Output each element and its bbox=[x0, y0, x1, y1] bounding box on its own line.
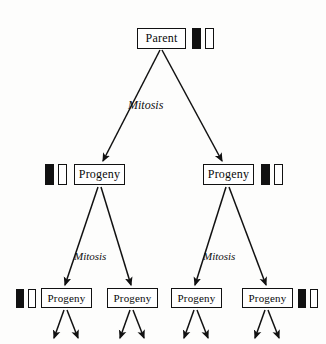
chromosome-light-parent bbox=[205, 28, 214, 49]
node-progeny-leaf-a: Progeny bbox=[41, 288, 92, 308]
chromosome-dark-mid-left bbox=[45, 164, 54, 185]
edge-leaf-a-down-left bbox=[54, 310, 64, 338]
label-mitosis-top: Mitosis bbox=[128, 98, 163, 113]
node-progeny-mid-right-label: Progeny bbox=[208, 167, 249, 182]
edge-leaf-b-down-right bbox=[133, 310, 144, 338]
chromosome-light-mid-right bbox=[274, 164, 283, 185]
node-progeny-mid-left: Progeny bbox=[74, 164, 125, 185]
edge-mid-left-to-leaf-a bbox=[65, 187, 98, 285]
node-progeny-leaf-a-label: Progeny bbox=[47, 292, 85, 304]
edge-parent-to-mid-right bbox=[162, 50, 222, 161]
chromosome-dark-mid-right bbox=[261, 164, 270, 185]
edge-leaf-d-down-right bbox=[268, 310, 279, 338]
chromosome-light-mid-left bbox=[58, 164, 67, 185]
chromosome-dark-leaf-d bbox=[298, 289, 306, 308]
node-progeny-mid-left-label: Progeny bbox=[79, 167, 120, 182]
node-progeny-leaf-c-label: Progeny bbox=[177, 292, 215, 304]
node-progeny-mid-right: Progeny bbox=[203, 164, 254, 185]
edge-leaf-c-down-left bbox=[184, 310, 194, 338]
chromosome-dark-leaf-a bbox=[16, 289, 24, 308]
label-mitosis-bottom-right: Mitosis bbox=[203, 250, 235, 262]
node-progeny-leaf-c: Progeny bbox=[171, 288, 222, 308]
edge-mid-right-to-leaf-c bbox=[195, 187, 226, 285]
edge-leaf-b-down-left bbox=[120, 310, 130, 338]
chromosome-dark-parent bbox=[192, 28, 201, 49]
node-parent-label: Parent bbox=[146, 31, 178, 46]
edge-leaf-c-down-right bbox=[197, 310, 208, 338]
chromosome-light-leaf-a bbox=[28, 289, 36, 308]
label-mitosis-bottom-left: Mitosis bbox=[74, 250, 106, 262]
node-progeny-leaf-b: Progeny bbox=[107, 288, 158, 308]
edge-mid-right-to-leaf-d bbox=[229, 187, 266, 285]
edge-mid-left-to-leaf-b bbox=[101, 187, 131, 285]
edge-leaf-a-down-right bbox=[67, 310, 78, 338]
node-progeny-leaf-b-label: Progeny bbox=[113, 292, 151, 304]
node-progeny-leaf-d: Progeny bbox=[242, 288, 293, 308]
edge-leaf-d-down-left bbox=[255, 310, 265, 338]
node-progeny-leaf-d-label: Progeny bbox=[248, 292, 286, 304]
mitosis-diagram: Parent Progeny Progeny Progeny Progeny P… bbox=[0, 0, 326, 344]
node-parent: Parent bbox=[137, 28, 186, 49]
chromosome-light-leaf-d bbox=[310, 289, 318, 308]
